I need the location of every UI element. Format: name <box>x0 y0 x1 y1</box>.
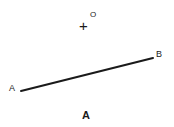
panel-caption: A <box>82 110 90 121</box>
plus-icon: + <box>79 18 88 33</box>
geometry-figure: A B + O A <box>0 0 174 127</box>
point-label-o: O <box>90 11 96 19</box>
line-segment-ab <box>21 58 153 91</box>
origin-cross-marker: + O <box>79 11 101 31</box>
point-label-a: A <box>9 84 15 93</box>
point-label-b: B <box>156 50 162 59</box>
